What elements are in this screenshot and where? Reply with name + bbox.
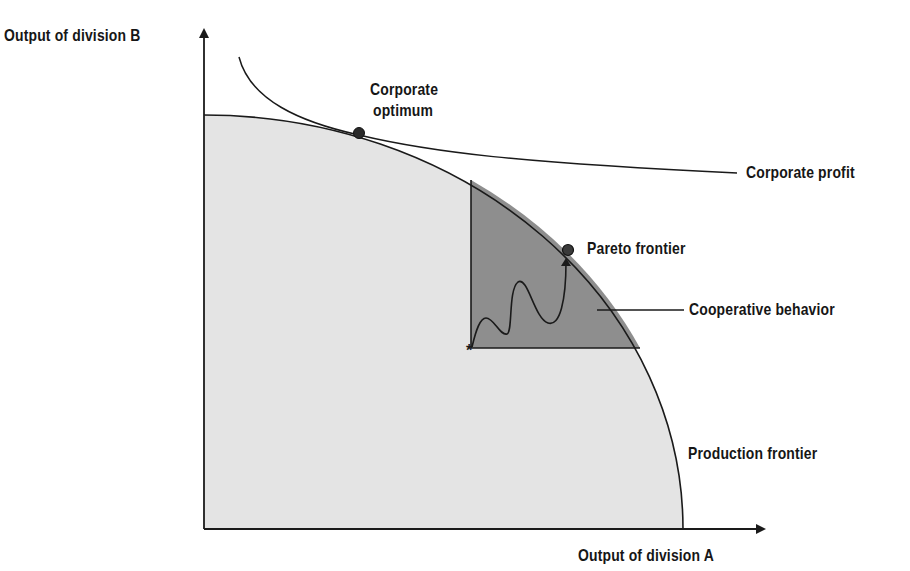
pareto-frontier-point xyxy=(563,245,574,256)
economics-diagram: * xyxy=(0,0,910,571)
y-axis-label: Output of division B xyxy=(4,26,140,46)
corporate-optimum-point xyxy=(354,128,365,139)
x-axis-label: Output of division A xyxy=(578,546,714,566)
corporate-profit-label: Corporate profit xyxy=(746,163,855,183)
production-frontier-label: Production frontier xyxy=(688,444,817,464)
cooperative-behavior-label: Cooperative behavior xyxy=(689,300,835,320)
pareto-frontier-label: Pareto frontier xyxy=(587,239,686,259)
corporate-optimum-label-line2: optimum xyxy=(373,101,433,121)
corporate-optimum-label-line1: Corporate xyxy=(370,80,438,100)
cooperative-behavior-region xyxy=(471,180,640,348)
start-marker-icon: * xyxy=(466,342,473,359)
